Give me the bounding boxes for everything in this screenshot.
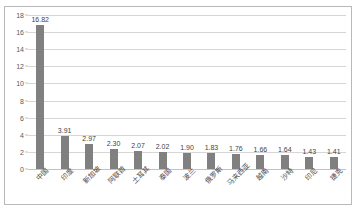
bar-value-label: 2.30 <box>107 140 121 147</box>
y-axis-tick-label: 10 <box>16 80 24 87</box>
bar-slot: 16.82 <box>28 15 52 169</box>
x-axis-tick-label: 沙特 <box>280 167 295 182</box>
bar[interactable] <box>183 153 191 169</box>
bar-slot: 2.30 <box>101 15 125 169</box>
x-axis-labels: 中国印度新加坡阿联酋土耳其泰国波兰俄罗斯马来西亚越南沙特印尼捷克 <box>28 170 346 210</box>
bar-slot: 1.64 <box>273 15 297 169</box>
bar-slot: 1.43 <box>297 15 321 169</box>
y-axis-tick-label: 2 <box>20 148 24 155</box>
bar-slot: 2.97 <box>77 15 101 169</box>
bar-value-label: 2.02 <box>156 143 170 150</box>
bar[interactable] <box>159 152 167 169</box>
bar-slot: 1.83 <box>199 15 223 169</box>
chart-container: 181614121086420 16.823.912.972.302.072.0… <box>4 6 352 205</box>
bar-value-label: 1.76 <box>229 145 243 152</box>
plot-area: 181614121086420 16.823.912.972.302.072.0… <box>28 15 346 169</box>
bar-slot: 1.90 <box>175 15 199 169</box>
bar[interactable] <box>85 144 93 169</box>
bar-slot: 1.41 <box>322 15 346 169</box>
bar[interactable] <box>134 151 142 169</box>
bar-value-label: 16.82 <box>31 16 49 23</box>
bar-slot: 2.02 <box>150 15 174 169</box>
bar-value-label: 1.90 <box>180 144 194 151</box>
y-axis-tick-label: 18 <box>16 12 24 19</box>
bar[interactable] <box>36 25 44 169</box>
bar[interactable] <box>330 157 338 169</box>
bar-value-label: 1.43 <box>302 148 316 155</box>
bar[interactable] <box>281 155 289 169</box>
bar[interactable] <box>110 149 118 169</box>
bar-value-label: 3.91 <box>58 127 72 134</box>
x-axis-tick-label: 越南 <box>255 167 270 182</box>
y-axis-tick-label: 14 <box>16 46 24 53</box>
bar[interactable] <box>207 153 215 169</box>
y-axis-tick-label: 8 <box>20 97 24 104</box>
bar-value-label: 1.41 <box>327 148 341 155</box>
bar-slot: 1.66 <box>248 15 272 169</box>
bar-value-label: 1.83 <box>205 144 219 151</box>
bar-slot: 3.91 <box>52 15 76 169</box>
bar-slot: 2.07 <box>126 15 150 169</box>
bar-value-label: 1.64 <box>278 146 292 153</box>
x-axis-tick-label: 印尼 <box>304 167 319 182</box>
bar-value-label: 2.97 <box>82 135 96 142</box>
y-axis-tick-label: 6 <box>20 114 24 121</box>
bar[interactable] <box>61 136 69 169</box>
y-axis-tick-label: 0 <box>20 166 24 173</box>
x-axis-tick-label: 中国 <box>35 167 50 182</box>
x-axis-tick-label: 捷克 <box>329 167 344 182</box>
bar-value-label: 2.07 <box>131 142 145 149</box>
bar-value-label: 1.66 <box>254 146 268 153</box>
x-axis-tick-label: 波兰 <box>182 167 197 182</box>
y-axis-tick-label: 16 <box>16 29 24 36</box>
bar[interactable] <box>232 154 240 169</box>
y-axis-tick-label: 12 <box>16 63 24 70</box>
bar-slot: 1.76 <box>224 15 248 169</box>
bar-series: 16.823.912.972.302.072.021.901.831.761.6… <box>28 15 346 169</box>
x-axis-tick-label: 印度 <box>60 167 75 182</box>
y-axis-tick-label: 4 <box>20 131 24 138</box>
x-axis-tick-label: 泰国 <box>158 167 173 182</box>
